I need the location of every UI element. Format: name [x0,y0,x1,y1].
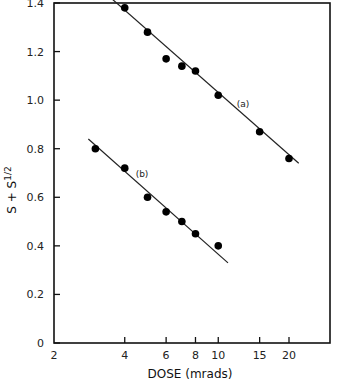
data-point [144,28,152,36]
y-tick-label: 0.2 [27,288,45,301]
x-axis-title: DOSE (mrads) [148,367,233,381]
data-point [121,4,129,12]
y-tick-label: 1.0 [27,94,45,107]
data-point [178,62,186,70]
data-point [162,208,170,216]
series-label: (b) [136,169,149,179]
svg-text:S + S1/2: S + S1/2 [3,166,19,213]
y-axis-title: S + S1/2 [3,166,19,213]
fit-lines [88,0,298,263]
x-tick-label: 20 [282,349,296,362]
x-tick-label: 15 [253,349,267,362]
data-point [192,67,200,75]
data-point [144,193,152,201]
y-tick-label: 0.4 [27,240,45,253]
data-point [92,145,100,153]
data-point [192,230,200,238]
x-tick-label: 2 [51,349,58,362]
y-tick-label: 1.2 [27,46,45,59]
data-points [92,4,293,250]
chart: 00.20.40.60.81.01.21.4 2468101520 (a)(b)… [0,0,337,385]
series-label: (a) [237,99,250,109]
plot-frame [54,3,330,343]
x-tick-label: 6 [163,349,170,362]
y-tick-label: 1.4 [27,0,45,10]
y-tick-label: 0.8 [27,143,45,156]
series-labels: (a)(b) [136,99,250,179]
x-tick-label: 10 [211,349,225,362]
y-axis: 00.20.40.60.81.01.21.4 [27,0,61,350]
data-point [178,218,186,226]
data-point [285,155,293,163]
y-tick-label: 0 [37,337,44,350]
data-point [121,164,129,172]
data-point [256,128,264,136]
data-point [214,91,222,99]
x-tick-label: 4 [121,349,128,362]
plot-border [54,3,330,343]
x-axis: 2468101520 [51,337,297,362]
y-tick-label: 0.6 [27,191,45,204]
data-point [214,242,222,250]
fit-line [111,0,299,163]
fit-line [88,139,228,263]
data-point [162,55,170,63]
x-tick-label: 8 [192,349,199,362]
